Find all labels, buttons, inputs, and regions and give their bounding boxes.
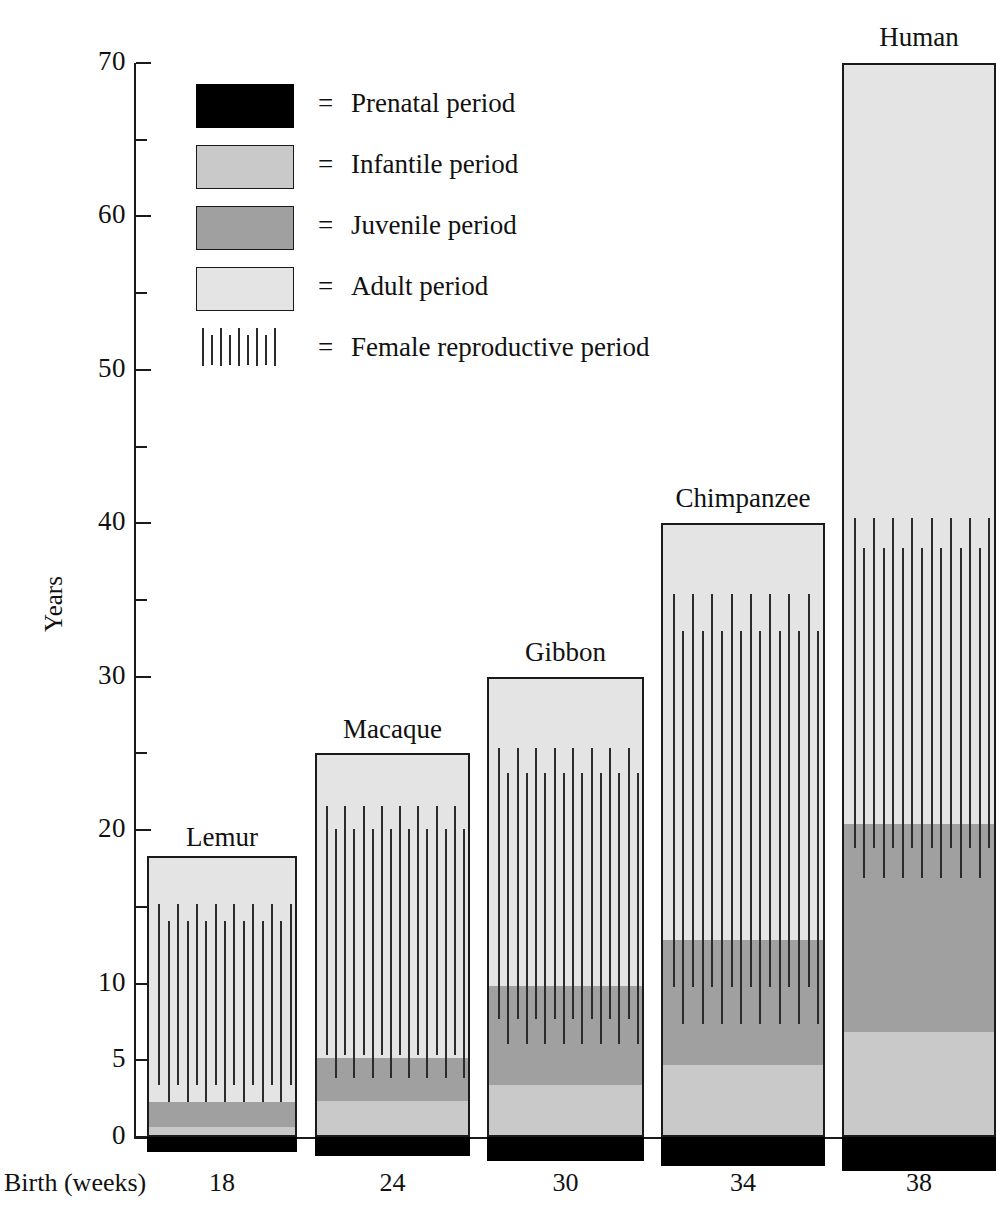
bar-gibbon[interactable]	[487, 677, 644, 1137]
x-tick-label-lemur: 18	[147, 1168, 297, 1198]
x-tick-label-human: 38	[842, 1168, 996, 1198]
y-tick-label-40: 40	[60, 508, 126, 535]
repro-line	[220, 328, 222, 366]
bar-label-chimpanzee: Chimpanzee	[661, 483, 825, 514]
y-axis-label: Years	[40, 544, 68, 664]
legend-swatch-infantile-icon	[196, 145, 294, 189]
legend-label-infantile: Infantile period	[351, 149, 518, 180]
segment-juvenile-gibbon	[489, 986, 642, 1086]
legend-equals-sign: =	[318, 210, 333, 241]
legend-label-repro: Female reproductive period	[351, 332, 649, 363]
y-tick-55	[136, 292, 147, 294]
y-tick-15	[136, 906, 147, 908]
bar-human[interactable]	[842, 63, 996, 1137]
x-axis-label: Birth (weeks)	[4, 1168, 146, 1198]
legend-swatch-adult-icon	[196, 267, 294, 311]
segment-adult-chimpanzee	[663, 525, 823, 939]
legend-equals-sign: =	[318, 88, 333, 119]
repro-line	[238, 328, 240, 366]
repro-line	[202, 328, 204, 366]
legend-label-juvenile: Juvenile period	[351, 210, 517, 241]
legend-swatch-prenatal-icon	[196, 84, 294, 128]
chart-canvas: 0102030405060705 Years Birth (weeks) Lem…	[0, 0, 996, 1215]
y-tick-label-10: 10	[60, 969, 126, 996]
segment-adult-macaque	[317, 755, 468, 1057]
y-tick-label-20: 20	[60, 815, 126, 842]
y-tick-label-70: 70	[60, 48, 126, 75]
segment-juvenile-macaque	[317, 1058, 468, 1101]
repro-line	[229, 335, 231, 365]
x-tick-label-chimpanzee: 34	[661, 1168, 825, 1198]
segment-infantile-gibbon	[489, 1085, 642, 1137]
y-tick-45	[136, 446, 147, 448]
legend-equals-sign: =	[318, 332, 333, 363]
bar-chimpanzee[interactable]	[661, 523, 825, 1137]
prenatal-block-chimpanzee	[661, 1137, 825, 1166]
repro-line	[211, 335, 213, 365]
bar-label-lemur: Lemur	[147, 822, 297, 853]
segment-infantile-human	[844, 1032, 994, 1137]
repro-line	[265, 335, 267, 365]
x-tick-label-gibbon: 30	[487, 1168, 644, 1198]
bar-label-human: Human	[842, 22, 996, 53]
repro-line	[256, 328, 258, 366]
y-tick-30	[136, 676, 151, 678]
legend-equals-sign: =	[318, 149, 333, 180]
prenatal-block-gibbon	[487, 1137, 644, 1161]
y-tick-70	[136, 62, 151, 64]
y-tick-label-50: 50	[60, 355, 126, 382]
segment-juvenile-human	[844, 824, 994, 1031]
legend-label-prenatal: Prenatal period	[351, 88, 515, 119]
segment-juvenile-chimpanzee	[663, 940, 823, 1066]
y-tick-label-60: 60	[60, 201, 126, 228]
segment-juvenile-lemur	[149, 1102, 295, 1127]
legend-swatch-repro-icon	[196, 328, 294, 372]
bar-macaque[interactable]	[315, 753, 470, 1137]
segment-adult-human	[844, 65, 994, 824]
y-tick-label-0: 0	[60, 1122, 126, 1149]
repro-line	[247, 335, 249, 365]
segment-adult-lemur	[149, 858, 295, 1102]
x-tick-label-macaque: 24	[315, 1168, 470, 1198]
y-tick-65	[136, 139, 147, 141]
legend-equals-sign: =	[318, 271, 333, 302]
prenatal-block-human	[842, 1137, 996, 1171]
bar-label-macaque: Macaque	[315, 714, 470, 745]
y-axis-line	[134, 63, 136, 1139]
legend-label-adult: Adult period	[351, 271, 488, 302]
segment-infantile-macaque	[317, 1101, 468, 1137]
y-tick-35	[136, 599, 147, 601]
segment-infantile-chimpanzee	[663, 1065, 823, 1137]
y-tick-40	[136, 522, 151, 524]
segment-infantile-lemur	[149, 1127, 295, 1137]
y-tick-60	[136, 215, 151, 217]
prenatal-block-lemur	[147, 1137, 297, 1152]
segment-adult-gibbon	[489, 679, 642, 986]
prenatal-block-macaque	[315, 1137, 470, 1156]
bar-label-gibbon: Gibbon	[487, 637, 644, 668]
legend-swatch-juvenile-icon	[196, 206, 294, 250]
bar-lemur[interactable]	[147, 856, 297, 1137]
repro-line	[274, 328, 276, 366]
y-tick-50	[136, 369, 151, 371]
y-tick-25	[136, 752, 147, 754]
y-tick-label-5: 5	[60, 1045, 126, 1072]
y-tick-label-30: 30	[60, 662, 126, 689]
